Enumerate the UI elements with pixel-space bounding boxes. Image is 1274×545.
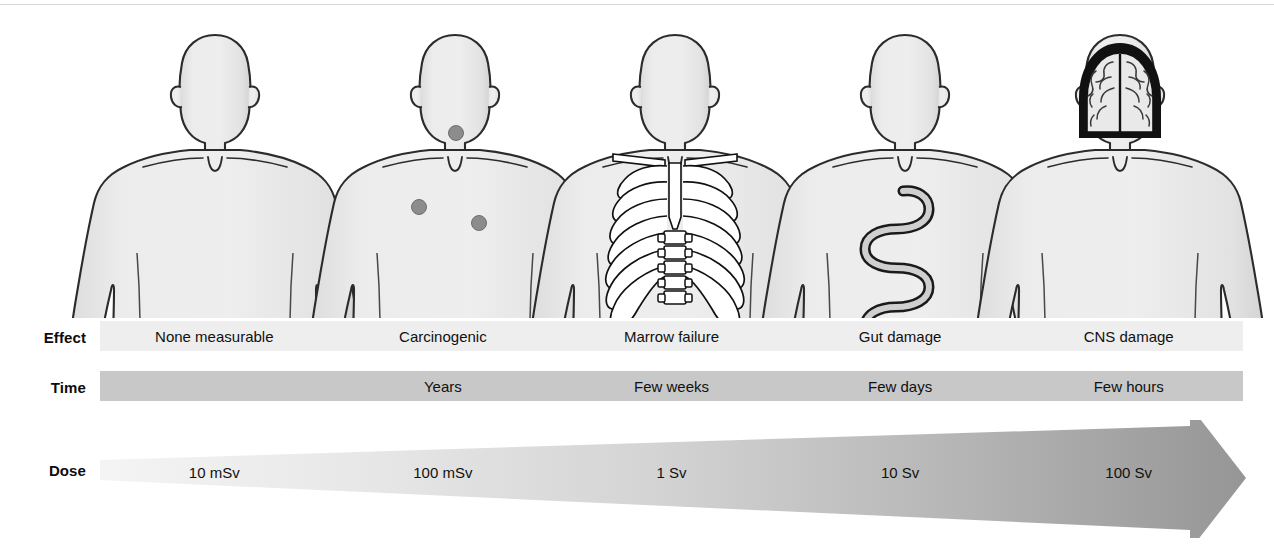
dose-cell: 1 Sv [557, 462, 786, 482]
dose-cell: 100 mSv [329, 462, 558, 482]
row-label-dose: Dose [0, 462, 86, 479]
dose-labels-row: 10 mSv 100 mSv 1 Sv 10 Sv 100 Sv [100, 462, 1243, 482]
row-label-effect: Effect [0, 329, 86, 346]
effect-cell: Carcinogenic [329, 321, 558, 351]
tumour-dot-thyroid [449, 126, 464, 141]
time-cell [100, 371, 329, 401]
effect-cell: Marrow failure [557, 321, 786, 351]
dose-cell: 10 Sv [786, 462, 1015, 482]
brain-icon [1080, 44, 1160, 137]
radiation-dose-effect-diagram: Effect None measurable Carcinogenic Marr… [0, 0, 1274, 545]
time-cell: Few hours [1014, 371, 1243, 401]
tumour-dot-left-chest [412, 200, 427, 215]
row-label-time: Time [0, 379, 86, 396]
ribcage-icon [606, 154, 745, 318]
figure-body-brain [973, 35, 1267, 318]
time-bar: Years Few weeks Few days Few hours [100, 371, 1243, 401]
effect-cell: None measurable [100, 321, 329, 351]
time-cell: Few days [786, 371, 1015, 401]
effect-cell: CNS damage [1014, 321, 1243, 351]
figure-body-plain [68, 35, 362, 318]
time-cell: Few weeks [557, 371, 786, 401]
body-figures-row [0, 0, 1274, 318]
effect-cell: Gut damage [786, 321, 1015, 351]
dose-cell: 100 Sv [1014, 462, 1243, 482]
dose-cell: 10 mSv [100, 462, 329, 482]
effect-bar: None measurable Carcinogenic Marrow fail… [100, 321, 1243, 351]
time-cell: Years [329, 371, 558, 401]
tumour-dot-right-chest [472, 216, 487, 231]
